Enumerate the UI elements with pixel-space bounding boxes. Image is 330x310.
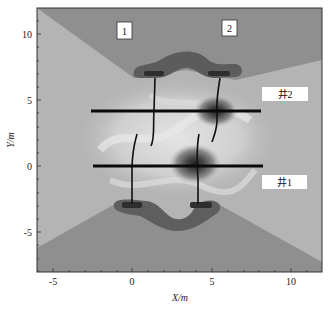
- x-tick-label: 10: [286, 276, 296, 287]
- well-label-1: 井1: [262, 175, 307, 189]
- y-tick-label: 5: [27, 95, 32, 106]
- region-label-1: 1: [117, 22, 132, 39]
- hotspot-well1: [169, 144, 221, 184]
- x-axis-label: X/m: [171, 292, 188, 303]
- x-tick-label: -5: [49, 276, 57, 287]
- svg-text:井1: 井1: [277, 176, 292, 188]
- x-tick-label: 0: [130, 276, 135, 287]
- well-label-2: 井2: [262, 87, 308, 101]
- y-tick-label: 0: [27, 161, 32, 172]
- y-tick-label: 10: [22, 29, 32, 40]
- svg-text:1: 1: [122, 26, 127, 37]
- y-axis-label: Y/m: [5, 132, 16, 148]
- svg-text:井2: 井2: [278, 88, 293, 100]
- contour-figure: 1 2 井2 井1: [0, 0, 330, 310]
- region-label-2: 2: [222, 20, 237, 36]
- y-tick-label: -5: [24, 227, 32, 238]
- plot-area: 1 2 井2 井1: [37, 8, 322, 272]
- x-tick-label: 5: [210, 276, 215, 287]
- svg-text:2: 2: [227, 23, 232, 34]
